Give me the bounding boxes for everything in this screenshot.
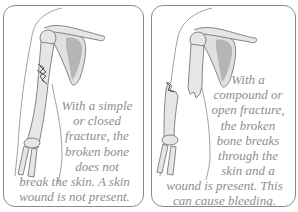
caption-line: break the skin. A skin [4,174,144,189]
caption-line: With a [205,72,291,87]
compound-fracture-caption-tail: wound is present. This can cause bleedin… [152,178,296,207]
caption-line: open fracture, [205,102,291,117]
simple-fracture-caption-tail: break the skin. A skin wound is not pres… [4,174,144,204]
caption-line: can cause bleeding. [152,193,296,207]
caption-line: does not [57,159,137,174]
caption-line: or closed [57,113,137,128]
caption-line: compound or [205,87,291,102]
caption-line: wound is present. This [152,178,296,193]
simple-fracture-panel: With a simple or closed fracture, the br… [3,5,144,207]
caption-line: broken bone [57,144,137,159]
simple-fracture-caption: With a simple or closed fracture, the br… [57,98,137,174]
caption-line: fracture, the [57,128,137,143]
caption-line: the broken [205,118,291,133]
compound-fracture-panel: With a compound or open fracture, the br… [151,5,296,207]
caption-line: skin and a [205,163,291,178]
caption-line: through the [205,148,291,163]
caption-line: wound is not present. [4,189,144,204]
caption-line: With a simple [57,98,137,113]
compound-fracture-caption: With a compound or open fracture, the br… [205,72,291,178]
caption-line: bone breaks [205,133,291,148]
